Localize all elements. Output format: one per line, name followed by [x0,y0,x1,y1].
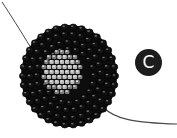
step-label-text: C [143,54,155,71]
thread-tail-lower [104,108,177,124]
step-label-badge: C [135,49,162,76]
beaded-bead-disc [19,24,118,128]
thread-tail-upper [2,2,31,48]
